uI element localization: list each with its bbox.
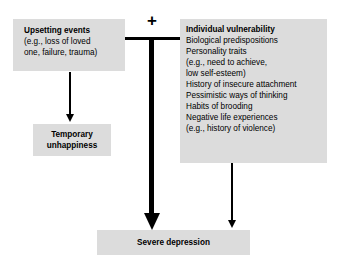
node-temporary-unhappiness-line-2: unhappiness (47, 140, 98, 151)
node-individual-vulnerability-line-3: (e.g., need to achieve, (186, 57, 327, 68)
node-upsetting-events-line-1: (e.g., loss of loved (24, 36, 125, 47)
connector-vertical-main (149, 37, 154, 218)
connector-upsetting-to-temporary (69, 72, 71, 116)
arrowhead-main-to-severe-depression (144, 213, 160, 230)
node-individual-vulnerability: Individual vulnerability Biological pred… (180, 19, 327, 163)
node-individual-vulnerability-line-6: Pessimistic ways of thinking (186, 90, 327, 101)
node-individual-vulnerability-line-1: Biological predispositions (186, 35, 327, 46)
node-upsetting-events-line-2: one, failure, trauma) (24, 47, 125, 58)
arrowhead-vulnerability-to-severe-depression (228, 220, 236, 228)
node-individual-vulnerability-line-8: Negative life experiences (186, 112, 327, 123)
node-temporary-unhappiness: Temporary unhappiness (33, 124, 111, 156)
node-severe-depression: Severe depression (97, 230, 250, 255)
node-upsetting-events-title: Upsetting events (24, 25, 125, 36)
node-individual-vulnerability-line-7: Habits of brooding (186, 101, 327, 112)
node-upsetting-events: Upsetting events (e.g., loss of loved on… (13, 19, 125, 71)
node-individual-vulnerability-line-9: (e.g., history of violence) (186, 123, 327, 134)
plus-operator-symbol: + (147, 14, 157, 28)
node-individual-vulnerability-line-4: low self-esteem) (186, 68, 327, 79)
node-individual-vulnerability-line-2: Personality traits (186, 46, 327, 57)
node-individual-vulnerability-title: Individual vulnerability (186, 24, 327, 35)
node-individual-vulnerability-line-5: History of insecure attachment (186, 79, 327, 90)
arrowhead-upsetting-to-temporary (66, 114, 74, 122)
node-severe-depression-title: Severe depression (137, 237, 210, 248)
node-temporary-unhappiness-line-1: Temporary (51, 129, 93, 140)
connector-vulnerability-to-severe-depression (231, 163, 233, 222)
depression-diathesis-stress-diagram: Upsetting events (e.g., loss of loved on… (0, 0, 340, 272)
